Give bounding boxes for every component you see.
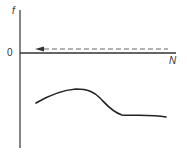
origin-label: 0 bbox=[7, 48, 13, 58]
response-curve bbox=[36, 89, 166, 117]
x-axis-label: N bbox=[169, 56, 176, 66]
arrow-left-icon bbox=[35, 47, 44, 52]
diagram-canvas bbox=[0, 0, 187, 153]
y-axis-label: f bbox=[12, 6, 15, 16]
